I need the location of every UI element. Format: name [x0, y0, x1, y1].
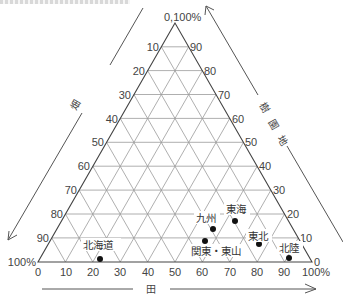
- svg-text:30: 30: [273, 184, 285, 196]
- point-labels: 北海道 北陸 東北 関東・東山 九州 東海: [81, 202, 303, 257]
- axis-label-paddy: 田: [146, 284, 156, 295]
- svg-text:10: 10: [147, 41, 159, 53]
- point-hokkaido: [97, 256, 103, 262]
- svg-text:50: 50: [169, 266, 181, 278]
- label-tohoku: 東北: [248, 230, 269, 242]
- bottom-ticks: 0 10 20 30 40 50 60 70 80 90 100%: [35, 266, 330, 278]
- svg-text:80: 80: [51, 208, 63, 220]
- svg-text:70: 70: [65, 184, 77, 196]
- axis-label-orchard-3: 地: [275, 133, 290, 148]
- svg-text:20: 20: [133, 65, 145, 77]
- svg-text:30: 30: [114, 266, 126, 278]
- svg-text:40: 40: [106, 113, 118, 125]
- label-hokkaido: 北海道: [83, 239, 114, 251]
- svg-text:60: 60: [196, 266, 208, 278]
- svg-text:40: 40: [142, 266, 154, 278]
- svg-text:20: 20: [287, 208, 299, 220]
- svg-text:80: 80: [204, 65, 216, 77]
- label-kyushu: 九州: [196, 212, 216, 224]
- point-tokai: [232, 218, 238, 224]
- svg-text:0: 0: [35, 266, 41, 278]
- svg-text:30: 30: [119, 89, 131, 101]
- axis-label-field: 畑: [67, 97, 82, 112]
- svg-text:50: 50: [92, 136, 104, 148]
- left-arrow-line: [8, 113, 82, 240]
- left-corner-label: 100%: [8, 256, 36, 268]
- apex-label: 0,100%: [164, 11, 202, 23]
- point-kyushu: [210, 226, 216, 232]
- label-tokai: 東海: [226, 203, 247, 215]
- ternary-chart: 畑 樹 園 地 田 0,100% 10 20 30 40 50 60 70 80…: [0, 0, 343, 299]
- svg-text:90: 90: [190, 41, 202, 53]
- svg-text:40: 40: [259, 160, 271, 172]
- svg-text:10: 10: [60, 266, 72, 278]
- label-hokuriku: 北陸: [279, 242, 300, 254]
- right-arrowhead-icon: [205, 6, 214, 15]
- axis-label-orchard-2: 園: [266, 118, 281, 132]
- point-hokuriku: [286, 255, 292, 261]
- axis-label-orchard-1: 樹: [257, 100, 272, 115]
- svg-text:100%: 100%: [302, 266, 330, 278]
- svg-text:50: 50: [245, 136, 257, 148]
- svg-text:20: 20: [87, 266, 99, 278]
- svg-text:70: 70: [224, 266, 236, 278]
- label-kanto-tosan: 関東・東山: [191, 245, 241, 257]
- svg-text:90: 90: [37, 232, 49, 244]
- svg-text:80: 80: [251, 266, 263, 278]
- svg-text:90: 90: [278, 266, 290, 278]
- svg-text:70: 70: [218, 89, 230, 101]
- svg-text:60: 60: [78, 160, 90, 172]
- svg-text:60: 60: [232, 113, 244, 125]
- point-kanto-tosan: [202, 238, 208, 244]
